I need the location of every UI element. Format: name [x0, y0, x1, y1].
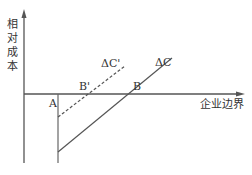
curve-label-delta-c-prime: ΔC'	[101, 57, 120, 70]
x-axis-arrow-icon	[236, 92, 245, 97]
curve-label-delta-c: ΔC	[155, 56, 171, 69]
y-axis-label-char-3: 成	[7, 46, 18, 59]
curve-delta-c-prime	[58, 66, 125, 117]
y-axis-label-char-4: 本	[7, 59, 18, 73]
y-axis	[22, 9, 27, 163]
point-label-a: A	[48, 97, 58, 110]
y-axis-label-char-2: 对	[7, 31, 18, 45]
y-axis-label-char-1: 相	[7, 18, 18, 31]
point-label-b-prime: B'	[79, 80, 90, 93]
point-label-b: B	[133, 80, 141, 93]
x-axis-label: 企业边界	[200, 97, 244, 111]
curve-delta-c	[58, 58, 172, 152]
y-axis-arrow-icon	[22, 9, 27, 18]
cost-boundary-diagram: 相 对 成 本 企业边界 ΔC ΔC' B' B A	[0, 0, 252, 175]
